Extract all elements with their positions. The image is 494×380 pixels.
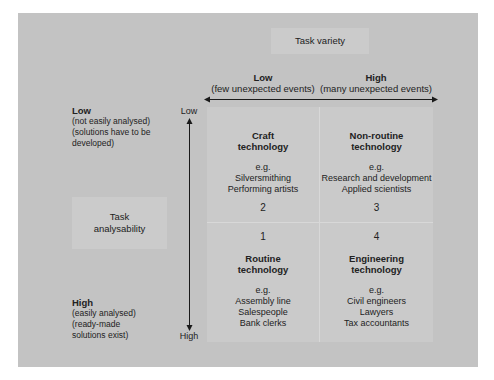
- quadrant-number: 4: [320, 231, 433, 242]
- grid-vertical-divider: [319, 107, 320, 342]
- vertical-axis-top-label: Low: [174, 106, 204, 116]
- analysability-low-line: (not easily analysed): [72, 116, 182, 127]
- variety-low-label: Low (few unexpected events): [207, 72, 319, 94]
- task-analysability-title-line2: analysability: [94, 223, 146, 235]
- variety-low-sub: (few unexpected events): [211, 83, 315, 94]
- grid-horizontal-divider: [207, 222, 433, 223]
- quadrant-name: Non-routine: [320, 130, 433, 141]
- quadrant-name: technology: [320, 264, 433, 275]
- task-variety-title-box: Task variety: [271, 28, 369, 54]
- quadrant-name: technology: [207, 264, 319, 275]
- quadrant-name: Engineering: [320, 253, 433, 264]
- quadrant-number: 2: [207, 202, 319, 213]
- quadrant-name: technology: [320, 141, 433, 152]
- quadrant-example: Civil engineers: [320, 296, 433, 307]
- variety-high-label: High (many unexpected events): [319, 72, 433, 94]
- quadrant-example: Bank clerks: [207, 318, 319, 329]
- quadrant-example: Tax accountants: [320, 318, 433, 329]
- quadrant-name: technology: [207, 141, 319, 152]
- variety-high-title: High: [319, 72, 433, 83]
- vertical-axis-bottom-label: High: [174, 331, 204, 341]
- quadrant-example: Assembly line: [207, 296, 319, 307]
- quadrant-eg: e.g.: [207, 285, 319, 296]
- quadrant-example: Lawyers: [320, 307, 433, 318]
- task-analysability-title-box: Task analysability: [72, 197, 167, 249]
- analysability-high-line: (ready-made: [72, 319, 182, 330]
- quadrant-routine-technology: 1 Routine technology e.g. Assembly line …: [207, 223, 319, 342]
- technology-matrix: Craft technology e.g. Silversmithing Per…: [207, 107, 433, 342]
- quadrant-name: Craft: [207, 130, 319, 141]
- quadrant-number: 1: [207, 231, 319, 242]
- quadrant-example: Salespeople: [207, 307, 319, 318]
- quadrant-eg: e.g.: [207, 162, 319, 173]
- quadrant-engineering-technology: 4 Engineering technology e.g. Civil engi…: [320, 223, 433, 342]
- variety-high-sub: (many unexpected events): [320, 83, 432, 94]
- variety-low-title: Low: [207, 72, 319, 83]
- quadrant-non-routine-technology: Non-routine technology e.g. Research and…: [320, 107, 433, 222]
- analysability-low-line: developed): [72, 138, 182, 149]
- horizontal-double-arrow-icon: [204, 95, 438, 104]
- analysability-high-line: solutions exist): [72, 330, 182, 341]
- analysability-low-line: (solutions have to be: [72, 127, 182, 138]
- task-analysability-title-line1: Task: [110, 211, 130, 223]
- analysability-high-title: High: [72, 297, 182, 308]
- quadrant-craft-technology: Craft technology e.g. Silversmithing Per…: [207, 107, 319, 222]
- analysability-high-line: (easily analysed): [72, 308, 182, 319]
- quadrant-eg: e.g.: [320, 162, 433, 173]
- quadrant-example: Research and development: [320, 173, 433, 184]
- analysability-low-description: Low (not easily analysed) (solutions hav…: [72, 105, 182, 149]
- analysability-low-title: Low: [72, 105, 182, 116]
- quadrant-example: Applied scientists: [320, 184, 433, 195]
- vertical-double-arrow-icon: [185, 118, 194, 331]
- analysability-high-description: High (easily analysed) (ready-made solut…: [72, 297, 182, 341]
- quadrant-example: Performing artists: [207, 184, 319, 195]
- task-variety-title: Task variety: [295, 35, 345, 47]
- quadrant-name: Routine: [207, 253, 319, 264]
- quadrant-example: Silversmithing: [207, 173, 319, 184]
- quadrant-number: 3: [320, 202, 433, 213]
- quadrant-eg: e.g.: [320, 285, 433, 296]
